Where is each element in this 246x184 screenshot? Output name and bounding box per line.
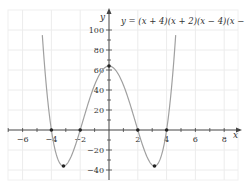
chart: −6−4−2246810080604020−20−40 y x y = (x +… — [0, 0, 246, 184]
svg-text:−4: −4 — [46, 135, 58, 144]
svg-text:−6: −6 — [17, 135, 29, 144]
svg-text:−20: −20 — [87, 146, 104, 155]
svg-text:8: 8 — [222, 135, 227, 144]
svg-text:40: 40 — [94, 86, 104, 95]
x-axis-label: x — [233, 130, 238, 140]
y-axis-label: y — [99, 12, 106, 22]
svg-text:6: 6 — [193, 135, 198, 144]
svg-text:80: 80 — [94, 46, 104, 55]
svg-text:−40: −40 — [87, 166, 104, 175]
svg-text:100: 100 — [89, 26, 104, 35]
svg-text:20: 20 — [94, 106, 104, 115]
equation-label: y = (x + 4)(x + 2)(x − 4)(x − 2) — [120, 16, 246, 26]
